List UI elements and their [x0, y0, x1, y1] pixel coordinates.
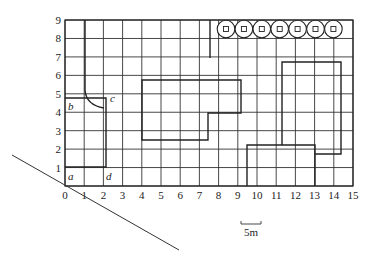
y-tick-label: 8 — [56, 32, 62, 44]
x-tick-label: 0 — [62, 189, 68, 201]
y-axis-labels: 123456789 — [56, 14, 62, 174]
x-tick-label: 5 — [158, 189, 164, 201]
y-tick-label: 3 — [56, 125, 62, 137]
tree-circle-icon — [271, 20, 289, 38]
diagonal-road-line — [12, 155, 179, 250]
x-tick-label: 10 — [252, 189, 264, 201]
x-tick-label: 9 — [235, 189, 241, 201]
y-tick-label: 1 — [56, 162, 62, 174]
y-tick-label: 6 — [56, 69, 62, 81]
x-tick-label: 8 — [216, 189, 222, 201]
tree-circle-icon — [289, 20, 307, 38]
x-tick-label: 6 — [177, 189, 183, 201]
tree-circle-icon — [307, 20, 325, 38]
tree-circle-icon — [235, 20, 253, 38]
x-tick-label: 2 — [101, 189, 107, 201]
x-tick-label: 11 — [271, 189, 282, 201]
tree-circle-icon — [325, 20, 343, 38]
point-c-label: c — [110, 92, 115, 104]
point-a-label: a — [68, 170, 74, 182]
point-d-label: d — [106, 170, 112, 182]
tree-circle-icon — [253, 20, 271, 38]
x-tick-label: 13 — [309, 189, 321, 201]
scale-bar: 5m — [241, 221, 261, 238]
x-tick-label: 4 — [139, 189, 145, 201]
curved-wall-line — [85, 20, 104, 108]
y-tick-label: 7 — [56, 51, 62, 63]
y-tick-label: 5 — [56, 88, 62, 100]
x-tick-label: 3 — [120, 189, 126, 201]
point-b-label: b — [68, 100, 74, 112]
x-tick-label: 7 — [197, 189, 203, 201]
y-tick-label: 4 — [56, 106, 62, 118]
y-tick-label: 2 — [56, 143, 62, 155]
x-tick-label: 14 — [328, 189, 340, 201]
tree-circle-icon — [217, 20, 235, 38]
scale-bar-label: 5m — [244, 226, 259, 238]
x-axis-labels: 0123456789101112131415 — [62, 189, 359, 201]
grid-border — [65, 20, 353, 186]
y-tick-label: 9 — [56, 14, 62, 26]
x-tick-label: 12 — [290, 189, 301, 201]
site-plan-diagram: 0123456789101112131415 123456789 a b c d… — [0, 0, 368, 273]
tree-row — [217, 20, 342, 38]
grid — [65, 20, 353, 186]
x-tick-label: 15 — [348, 189, 360, 201]
